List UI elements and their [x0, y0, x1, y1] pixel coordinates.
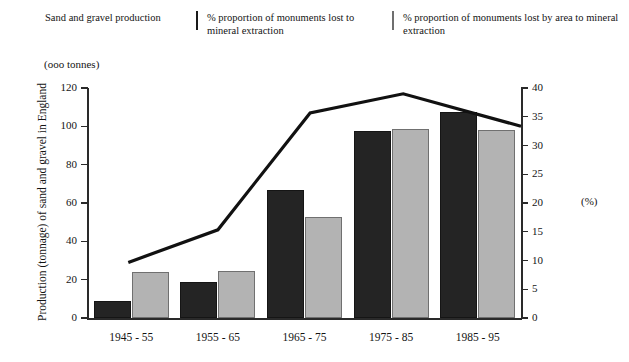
- grey-box-swatch-icon: [392, 12, 394, 30]
- left-tick-label: 80: [48, 159, 77, 170]
- right-tick-label: 25: [532, 168, 558, 179]
- chart-root: Sand and gravel production % proportion …: [0, 0, 629, 362]
- production-line-path: [128, 94, 521, 263]
- right-tick-label: 0: [532, 312, 558, 323]
- category-axis-labels: 1945 - 551955 - 651965 - 751975 - 851985…: [88, 331, 521, 351]
- left-axis-title: Production (tonnage) of sand and gravel …: [36, 72, 48, 332]
- legend-label-grey-bars: % proportion of monuments lost by area t…: [403, 12, 622, 37]
- right-axis-title: (%): [581, 195, 598, 207]
- plot-area: 020406080100120 0510152025303540: [88, 88, 521, 318]
- category-label-4: 1975 - 85: [348, 331, 435, 343]
- legend-item-dark-bars: % proportion of monuments lost to minera…: [196, 12, 386, 37]
- chart-legend: Sand and gravel production % proportion …: [0, 10, 629, 56]
- legend-label-dark-bars: % proportion of monuments lost to minera…: [207, 12, 386, 37]
- legend-item-grey-bars: % proportion of monuments lost by area t…: [392, 12, 622, 37]
- right-tick-label: 10: [532, 255, 558, 266]
- left-tick-label: 20: [48, 274, 77, 285]
- category-label-2: 1955 - 65: [175, 331, 262, 343]
- right-tick-label: 30: [532, 140, 558, 151]
- right-tick-label: 35: [532, 111, 558, 122]
- left-axis-unit-caption: (ooo tonnes): [44, 58, 99, 70]
- category-label-1: 1945 - 55: [88, 331, 175, 343]
- legend-label-line: Sand and gravel production: [45, 12, 161, 25]
- left-tick-label: 120: [48, 82, 77, 93]
- left-tick-label: 40: [48, 235, 77, 246]
- right-tick-label: 15: [532, 226, 558, 237]
- left-tick-label: 0: [48, 312, 77, 323]
- right-tick-label: 20: [532, 197, 558, 208]
- production-line-series: [84, 84, 525, 322]
- right-tick-label: 40: [532, 82, 558, 93]
- category-label-3: 1965 - 75: [261, 331, 348, 343]
- legend-item-line: Sand and gravel production: [36, 12, 186, 25]
- left-tick-label: 60: [48, 197, 77, 208]
- left-tick-label: 100: [48, 120, 77, 131]
- right-tick-label: 5: [532, 283, 558, 294]
- dark-box-swatch-icon: [196, 12, 198, 30]
- category-label-5: 1985 - 95: [434, 331, 521, 343]
